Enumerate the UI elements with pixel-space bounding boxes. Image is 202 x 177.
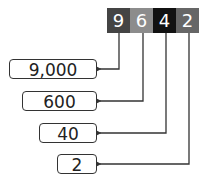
place-value-thousands: 9,000 xyxy=(9,59,97,79)
place-value-tens: 40 xyxy=(39,123,97,143)
digit-ones: 2 xyxy=(176,8,199,33)
place-value-ones: 2 xyxy=(57,154,97,174)
digit-thousands: 9 xyxy=(107,8,130,33)
place-value-hundreds: 600 xyxy=(22,91,97,111)
digit-hundreds: 6 xyxy=(130,8,153,33)
digit-tens: 4 xyxy=(153,8,176,33)
